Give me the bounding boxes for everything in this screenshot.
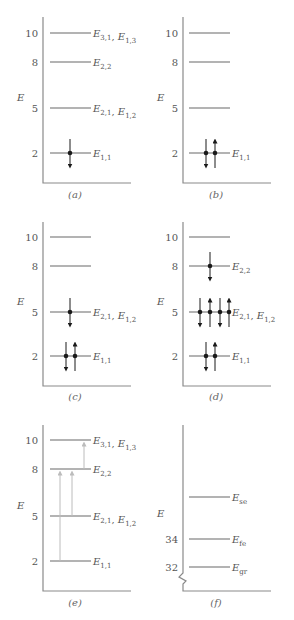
level-label: E1,1 [92, 351, 111, 365]
panel-e: E10E3,1, E1,38E2,25E2,1, E1,22E1,1(e) [16, 425, 136, 608]
level-label: E1,1 [92, 556, 111, 570]
energy-level-5: 5E2,1, E1,2 [32, 511, 137, 528]
panel-c: E1085E2,1, E1,22E1,1(c) [16, 222, 136, 402]
panel-caption: (b) [209, 189, 223, 200]
panel-caption: (a) [68, 189, 82, 200]
electron-spin-up [227, 300, 232, 327]
panel-caption: (d) [209, 391, 223, 402]
electron-spin-up [213, 141, 218, 168]
level-label: E2,2 [231, 261, 250, 275]
level-label: E2,1, E1,2 [231, 307, 275, 324]
tick-label: 10 [25, 232, 38, 243]
level-label: E1,1 [92, 148, 111, 162]
panel-caption: (f) [210, 597, 222, 608]
tick-label: 10 [165, 28, 178, 39]
axis [43, 425, 131, 591]
tick-label: 2 [32, 556, 38, 567]
axis-label-e: E [16, 500, 25, 511]
tick-label: 5 [32, 103, 38, 114]
panel-a: E10E3,1, E1,38E2,25E2,1, E1,22E1,1(a) [16, 17, 136, 200]
level-label: E2,2 [92, 57, 111, 71]
energy-level-34: 34Efe [165, 534, 246, 548]
tick-label: 5 [32, 307, 38, 318]
tick-label: 2 [32, 351, 38, 362]
tick-label: 32 [165, 562, 178, 573]
tick-label: 8 [32, 464, 38, 475]
level-label: E2,1, E1,2 [92, 307, 136, 324]
tick-label: 5 [32, 511, 38, 522]
level-label: E2,2 [92, 464, 111, 478]
panel-caption: (e) [68, 597, 82, 608]
level-label: Efe [231, 534, 246, 548]
axis [43, 222, 131, 386]
electron-spin-up [73, 344, 78, 371]
electron-spin-down [68, 298, 73, 325]
tick-label: 10 [25, 28, 38, 39]
panel-caption: (c) [68, 391, 82, 402]
energy-level-10: 10 [165, 232, 230, 243]
axis [183, 222, 271, 386]
tick-label: 8 [32, 261, 38, 272]
level-label: E3,1, E1,3 [92, 28, 136, 45]
tick-label: 8 [172, 261, 178, 272]
tick-label: 2 [172, 351, 178, 362]
energy-level-32: 32Egr [165, 562, 248, 576]
level-label: E1,1 [231, 351, 250, 365]
energy-level-5: 5E2,1, E1,2 [32, 103, 137, 120]
axis-label-e: E [156, 296, 165, 307]
axis-label-e: E [156, 508, 165, 519]
energy-level-5: 5E2,1, E1,2 [32, 298, 137, 325]
energy-level-8: 8 [172, 57, 230, 68]
electron-spin-down [204, 139, 209, 166]
axis [179, 425, 271, 591]
panel-d: E108E2,25E2,1, E1,22E1,1(d) [156, 222, 275, 402]
level-label: Ese [231, 492, 247, 506]
level-label: Egr [231, 562, 248, 576]
energy-level-10: 10E3,1, E1,3 [25, 435, 136, 452]
tick-label: 34 [165, 534, 178, 545]
energy-level-10: 10 [25, 232, 91, 243]
axis [183, 17, 271, 183]
electron-spin-up [208, 300, 213, 327]
energy-level-5: 5 [172, 103, 230, 114]
electron-spin-down [208, 252, 213, 279]
energy-level-10: 10 [165, 28, 230, 39]
level-label: E2,1, E1,2 [92, 511, 136, 528]
tick-label: 10 [25, 435, 38, 446]
level-label: E3,1, E1,3 [92, 435, 136, 452]
tick-label: 2 [32, 148, 38, 159]
energy-level-8: 8 [32, 261, 91, 272]
tick-label: 5 [172, 103, 178, 114]
electron-spin-down [204, 342, 209, 369]
electron-spin-down [64, 342, 69, 369]
level-label: E2,1, E1,2 [92, 103, 136, 120]
axis-label-e: E [16, 92, 25, 103]
tick-label: 5 [172, 307, 178, 318]
panel-f: EEse34Efe32Egr(f) [156, 425, 271, 608]
tick-label: 10 [165, 232, 178, 243]
tick-label: 8 [172, 57, 178, 68]
energy-level-36-5: Ese [189, 492, 247, 506]
electron-spin-down [68, 139, 73, 166]
energy-level-10: 10E3,1, E1,3 [25, 28, 136, 45]
electron-spin-down [198, 298, 203, 325]
axis-label-e: E [156, 92, 165, 103]
electron-spin-up [213, 344, 218, 371]
panel-b: E10852E1,1(b) [156, 17, 271, 200]
electron-spin-down [218, 298, 223, 325]
tick-label: 8 [32, 57, 38, 68]
axis-label-e: E [16, 296, 25, 307]
level-label: E1,1 [231, 148, 250, 162]
energy-level-figure: E10E3,1, E1,38E2,25E2,1, E1,22E1,1(a)E10… [0, 0, 294, 620]
energy-level-5: 5E2,1, E1,2 [172, 298, 276, 327]
axis [43, 17, 131, 183]
tick-label: 2 [172, 148, 178, 159]
